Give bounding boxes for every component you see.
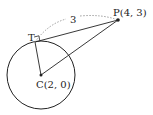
segment-CT — [35, 42, 41, 75]
point-C — [40, 74, 43, 77]
label-C: C(2, 0) — [36, 79, 71, 90]
segment-PC — [41, 20, 118, 75]
tangent-diagram: 3 P(4, 3) T C(2, 0) — [0, 0, 153, 115]
label-P: P(4, 3) — [113, 7, 147, 18]
label-T: T — [28, 32, 35, 43]
point-P — [116, 18, 120, 22]
length-label: 3 — [70, 14, 76, 25]
segment-PT — [35, 20, 118, 42]
